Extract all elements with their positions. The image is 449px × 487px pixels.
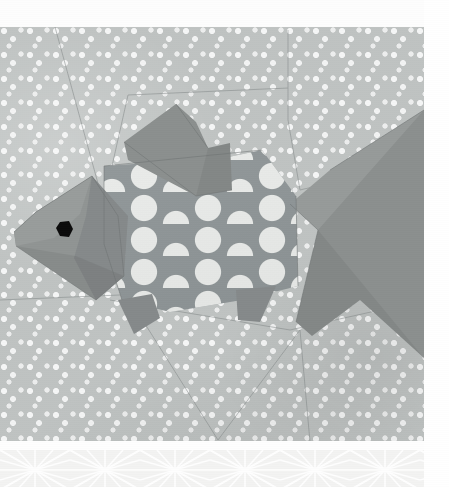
top-white-border — [0, 0, 449, 27]
right-white-margin — [424, 0, 449, 487]
geometric-star-pattern — [0, 450, 425, 487]
bottom-geometric-fabric — [0, 450, 425, 487]
quilt-block-photo: paper-pieced quilt block of a fish fish … — [0, 0, 449, 487]
fish-seam-lines — [0, 0, 449, 487]
bottom-white-seam — [0, 441, 426, 450]
